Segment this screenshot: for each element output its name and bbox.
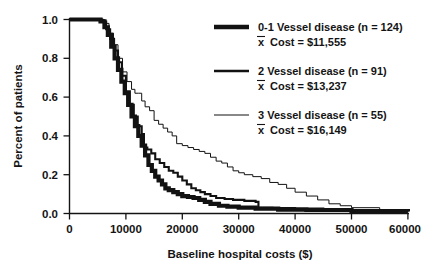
y-axis-title: Percent of patients	[12, 64, 24, 168]
legend-sub-0: x Cost = $11,555	[257, 36, 346, 48]
legend-mean-symbol-0: x	[258, 36, 265, 48]
legend-sub-1: x Cost = $13,237	[257, 80, 347, 92]
y-tick-label-5: 1.0	[42, 14, 58, 26]
x-tick-label-3: 30000	[223, 223, 255, 235]
y-tick-label-0: 0.0	[42, 208, 58, 220]
y-tick-label-3: 0.6	[42, 91, 58, 103]
x-tick-label-5: 50000	[336, 223, 368, 235]
legend-mean-symbol-2: x	[258, 124, 265, 136]
y-tick-label-1: 0.2	[42, 169, 58, 181]
x-tick-label-6: 60000	[389, 223, 421, 235]
legend-sub-2: x Cost = $16,149	[257, 124, 347, 136]
x-tick-label-1: 10000	[110, 223, 142, 235]
y-tick-label-4: 0.8	[42, 52, 59, 64]
legend-sub-text-2: Cost = $16,149	[270, 124, 347, 136]
x-tick-label-0: 0	[66, 223, 72, 235]
x-tick-label-2: 20000	[166, 223, 198, 235]
legend-label-1: 2 Vessel disease (n = 91)	[258, 65, 387, 77]
y-tick-label-2: 0.4	[42, 130, 59, 142]
survival-curve-chart: 0.0 0.2 0.4 0.6 0.8 1.0 0 10000 20000 30…	[0, 0, 431, 276]
legend-sub-text-1: Cost = $13,237	[270, 80, 347, 92]
x-tick-label-4: 40000	[279, 223, 311, 235]
legend-label-2: 3 Vessel disease (n = 55)	[258, 109, 387, 121]
legend-mean-symbol-1: x	[258, 80, 265, 92]
legend-sub-text-0: Cost = $11,555	[270, 36, 346, 48]
legend-label-0: 0-1 Vessel disease (n = 124)	[258, 21, 403, 33]
x-axis-title: Baseline hospital costs ($)	[167, 248, 312, 260]
